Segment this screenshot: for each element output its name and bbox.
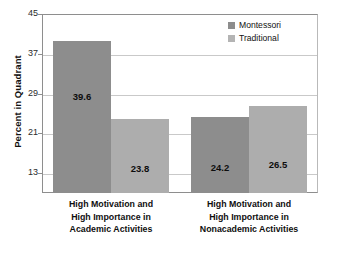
x-axis-category-label-2: High Motivation andHigh Importance inNon… <box>180 198 318 236</box>
y-axis-tick-label: 21 <box>12 127 38 137</box>
x-axis-category-label-1: High Motivation andHigh Importance inAca… <box>42 198 180 236</box>
legend-item-traditional: Traditional <box>228 33 281 44</box>
category-label-line: High Motivation and <box>42 198 180 211</box>
y-axis-tick-label: 37 <box>12 48 38 58</box>
category-label-line: Nonacademic Activities <box>180 223 318 236</box>
legend-item-montessori: Montessori <box>228 20 281 31</box>
legend-label-montessori: Montessori <box>239 20 281 31</box>
bar-montessori-group-1: 39.6 <box>53 41 111 193</box>
bar-value-label: 39.6 <box>53 91 111 102</box>
bar-value-label: 26.5 <box>249 159 307 170</box>
category-label-line: High Motivation and <box>180 198 318 211</box>
bar-chart: Percent in Quadrant 1321293745 39.623.82… <box>0 0 344 254</box>
x-axis-category-labels: High Motivation andHigh Importance inAca… <box>42 198 318 248</box>
y-axis-tick-label: 29 <box>12 88 38 98</box>
bar-traditional-group-1: 23.8 <box>111 119 169 193</box>
legend-swatch-montessori <box>228 22 235 29</box>
bar-value-label: 23.8 <box>111 163 169 174</box>
category-label-line: High Importance in <box>42 211 180 224</box>
category-label-line: High Importance in <box>180 211 318 224</box>
bar-value-label: 24.2 <box>191 162 249 173</box>
bar-traditional-group-2: 26.5 <box>249 106 307 193</box>
category-label-line: Academic Activities <box>42 223 180 236</box>
legend-swatch-traditional <box>228 35 235 42</box>
legend-label-traditional: Traditional <box>239 33 279 44</box>
bar-montessori-group-2: 24.2 <box>191 117 249 193</box>
y-axis-tick-label: 13 <box>12 167 38 177</box>
chart-legend: Montessori Traditional <box>228 20 281 46</box>
y-axis-tick-label: 45 <box>12 8 38 18</box>
